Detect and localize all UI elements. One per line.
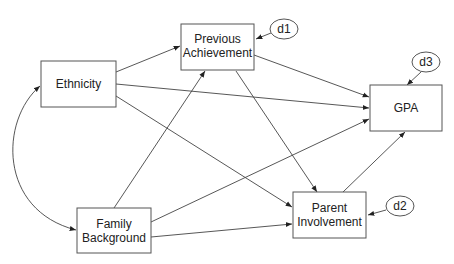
node-label: GPA: [394, 101, 418, 115]
edge-covariance-ethnicity-family: [13, 86, 76, 230]
edge-family-parent: [151, 224, 292, 237]
node-label: Achievement: [183, 46, 253, 60]
node-label: Previous: [194, 32, 241, 46]
node-label: d3: [419, 55, 433, 69]
edge-prevach-gpa: [254, 55, 369, 97]
node-label: Ethnicity: [56, 77, 101, 91]
node-parent-involvement: Parent Involvement: [293, 192, 366, 238]
edge-d1-prevach: [256, 33, 271, 39]
edge-ethnicity-parent: [116, 96, 292, 207]
node-ethnicity: Ethnicity: [41, 61, 116, 107]
path-diagram: Ethnicity Previous Achievement GPA Famil…: [0, 0, 454, 264]
node-label: Background: [82, 231, 146, 245]
node-label: Involvement: [297, 215, 362, 229]
node-d3: d3: [412, 52, 440, 72]
node-d1: d1: [270, 19, 298, 39]
edge-d2-parent: [368, 210, 386, 215]
node-label: d1: [277, 22, 291, 36]
edge-d3-gpa: [407, 72, 421, 85]
edge-parent-gpa: [343, 132, 405, 192]
node-d2: d2: [386, 196, 414, 216]
node-family-background: Family Background: [77, 208, 151, 253]
node-label: d2: [393, 199, 407, 213]
edge-prevach-parent: [236, 71, 317, 192]
node-gpa: GPA: [370, 85, 442, 131]
edge-ethnicity-gpa: [116, 84, 369, 108]
edge-ethnicity-prevach: [116, 46, 180, 72]
node-label: Family: [96, 217, 131, 231]
node-label: Parent: [312, 201, 348, 215]
edge-family-prevach: [114, 71, 205, 208]
node-previous-achievement: Previous Achievement: [181, 24, 254, 70]
